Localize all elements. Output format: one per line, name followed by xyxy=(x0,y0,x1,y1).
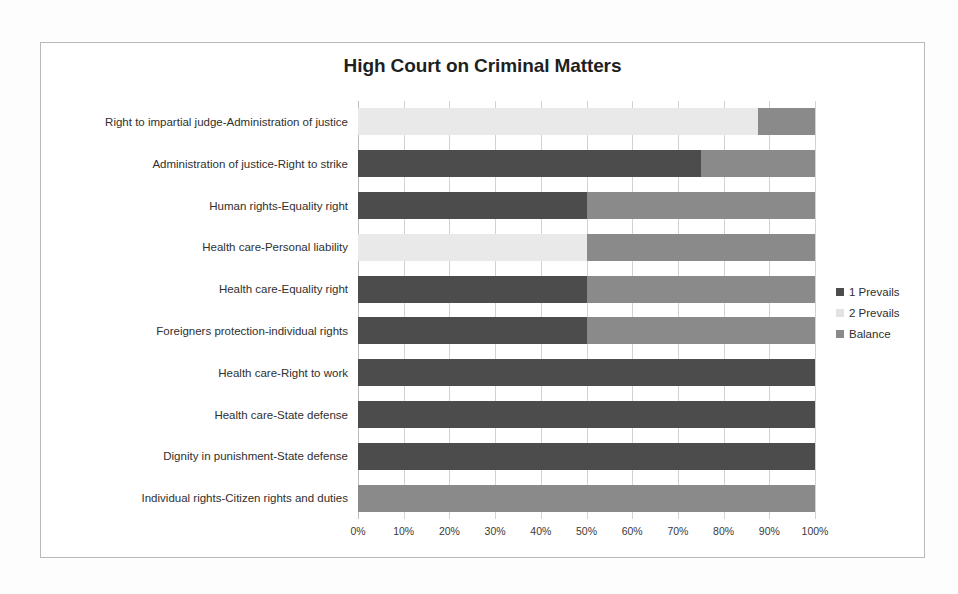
bar-segment xyxy=(358,192,587,219)
bar-segment xyxy=(358,234,587,261)
bar-segment xyxy=(358,317,587,344)
bar-row xyxy=(358,234,815,261)
x-axis-tick-label: 90% xyxy=(759,525,780,537)
legend-item: Balance xyxy=(836,323,922,344)
bar-segment xyxy=(701,150,815,177)
bar-row xyxy=(358,276,815,303)
bar-segment xyxy=(587,276,816,303)
bar-segment xyxy=(587,317,816,344)
x-axis-tick-labels: 0%10%20%30%40%50%60%70%80%90%100% xyxy=(358,525,815,545)
bar-segment xyxy=(358,401,815,428)
x-axis-tick-label: 60% xyxy=(622,525,643,537)
y-axis-label: Right to impartial judge-Administration … xyxy=(105,115,348,129)
bar-segment xyxy=(358,485,815,512)
bar-segment xyxy=(358,276,587,303)
chart-legend: 1 Prevails2 PrevailsBalance xyxy=(836,281,922,344)
x-axis-tick-label: 40% xyxy=(530,525,551,537)
x-axis-tick-label: 70% xyxy=(667,525,688,537)
x-axis-tick-label: 100% xyxy=(802,525,829,537)
y-axis-label: Health care-Right to work xyxy=(218,366,348,380)
y-axis-label: Foreigners protection-individual rights xyxy=(156,324,348,338)
bar-segment xyxy=(587,192,816,219)
legend-swatch-icon xyxy=(836,288,844,296)
legend-label: Balance xyxy=(849,328,891,340)
stacked-bar-series xyxy=(358,101,815,519)
bar-segment xyxy=(587,234,816,261)
bar-segment xyxy=(358,108,758,135)
legend-item: 2 Prevails xyxy=(836,302,922,323)
bar-row xyxy=(358,192,815,219)
x-axis-tick-label: 0% xyxy=(350,525,365,537)
x-axis-tick-label: 10% xyxy=(393,525,414,537)
bar-row xyxy=(358,485,815,512)
bar-row xyxy=(358,150,815,177)
bar-row xyxy=(358,108,815,135)
plot-area xyxy=(358,101,815,519)
legend-swatch-icon xyxy=(836,330,844,338)
bar-segment xyxy=(358,359,815,386)
bar-segment xyxy=(358,443,815,470)
legend-item: 1 Prevails xyxy=(836,281,922,302)
bar-row xyxy=(358,443,815,470)
scanned-page: High Court on Criminal Matters Right to … xyxy=(0,0,958,594)
bar-row xyxy=(358,359,815,386)
y-axis-label: Health care-Equality right xyxy=(219,282,348,296)
chart-title: High Court on Criminal Matters xyxy=(41,55,924,77)
y-axis-label: Individual rights-Citizen rights and dut… xyxy=(142,491,348,505)
bar-segment xyxy=(358,150,701,177)
bar-row xyxy=(358,401,815,428)
bar-segment xyxy=(758,108,815,135)
y-axis-label: Health care-Personal liability xyxy=(202,240,348,254)
legend-swatch-icon xyxy=(836,309,844,317)
x-axis-tick-label: 20% xyxy=(439,525,460,537)
x-axis-tick-label: 80% xyxy=(713,525,734,537)
bar-row xyxy=(358,317,815,344)
y-axis-label: Health care-State defense xyxy=(214,408,348,422)
x-axis-tick-label: 30% xyxy=(485,525,506,537)
y-axis-category-labels: Right to impartial judge-Administration … xyxy=(51,101,353,519)
x-axis-tick-label: 50% xyxy=(576,525,597,537)
y-axis-label: Administration of justice-Right to strik… xyxy=(152,157,348,171)
legend-label: 1 Prevails xyxy=(849,286,900,298)
y-axis-label: Dignity in punishment-State defense xyxy=(163,449,348,463)
gridline-100% xyxy=(815,101,816,519)
y-axis-label: Human rights-Equality right xyxy=(209,199,348,213)
chart-frame: High Court on Criminal Matters Right to … xyxy=(40,42,925,558)
legend-label: 2 Prevails xyxy=(849,307,900,319)
